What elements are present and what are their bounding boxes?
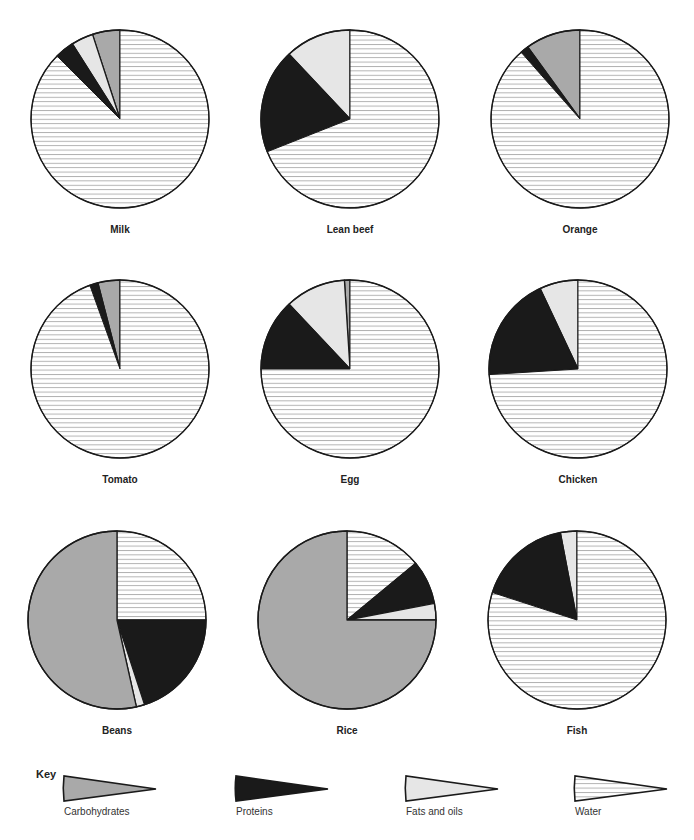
legend-item-water: Water [574,776,667,817]
pie-lean-beef: Lean beef [261,30,439,235]
nutrient-pie-charts: MilkLean beefOrangeTomatoEggChickenBeans… [0,0,694,840]
pie-orange: Orange [491,30,669,235]
legend-label-water: Water [575,806,602,817]
pie-label-tomato: Tomato [102,474,137,485]
legend-item-carbohydrates: Carbohydrates [63,776,156,817]
legend-label-proteins: Proteins [236,806,273,817]
legend-label-carbohydrates: Carbohydrates [64,806,130,817]
pie-label-orange: Orange [562,224,597,235]
pie-label-fish: Fish [567,725,588,736]
pie-label-beans: Beans [102,725,132,736]
pie-fish: Fish [488,531,666,736]
pie-grid: MilkLean beefOrangeTomatoEggChickenBeans… [28,30,669,736]
legend-swatch-carbohydrates [63,776,156,801]
pie-label-lean-beef: Lean beef [327,224,374,235]
pie-egg: Egg [261,280,439,485]
pie-chicken: Chicken [489,280,667,485]
pie-slice-milk-water [31,30,209,208]
legend-title: Key [36,768,57,780]
legend-swatch-fats-and-oils [405,776,498,801]
pie-slice-orange-water [491,30,669,208]
pie-beans: Beans [28,531,206,736]
pie-milk: Milk [31,30,209,235]
pie-label-chicken: Chicken [559,474,598,485]
pie-label-egg: Egg [341,474,360,485]
legend-item-proteins: Proteins [235,776,328,817]
pie-slice-tomato-water [31,280,209,458]
legend: Key CarbohydratesProteinsFats and oilsWa… [36,768,667,817]
pie-slice-beans-water [117,531,206,620]
pie-tomato: Tomato [31,280,209,485]
legend-swatch-water [574,776,667,801]
legend-swatch-proteins [235,776,328,801]
pie-label-milk: Milk [110,224,130,235]
pie-label-rice: Rice [336,725,358,736]
legend-item-fats-and-oils: Fats and oils [405,776,498,817]
pie-rice: Rice [258,531,436,736]
legend-label-fats-and-oils: Fats and oils [406,806,463,817]
